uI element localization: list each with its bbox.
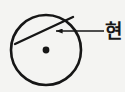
circle-center-dot: [43, 47, 50, 54]
chord-label: 현: [103, 18, 123, 44]
circle-chord-figure: 현: [0, 0, 125, 92]
geometry-canvas: [0, 0, 125, 92]
